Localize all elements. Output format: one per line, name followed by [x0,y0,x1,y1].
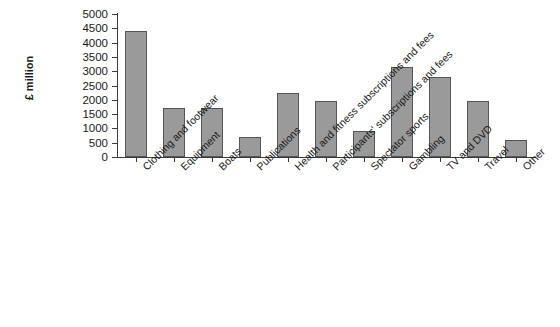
y-tick-label: 1000 [62,122,108,134]
y-tick-label: 2500 [62,80,108,92]
bar [505,140,527,157]
y-tick-label: 3500 [62,51,108,63]
x-tick [402,157,403,162]
y-tick-label: 500 [62,137,108,149]
bar [125,31,147,157]
y-tick-label: 2000 [62,94,108,106]
bar [315,101,337,157]
bar [391,67,413,157]
y-tick-label: 1500 [62,108,108,120]
x-tick [250,157,251,162]
bar [353,131,375,157]
x-tick [212,157,213,162]
x-tick [364,157,365,162]
y-tick-label: 5000 [62,8,108,20]
bar [239,137,261,157]
x-tick [440,157,441,162]
x-tick [288,157,289,162]
y-axis-title: £ million [23,33,35,123]
bar-chart: £ million 050010001500200025003000350040… [0,0,560,327]
x-tick [326,157,327,162]
x-tick [516,157,517,162]
y-tick-label: 3000 [62,65,108,77]
bar [163,108,185,157]
y-tick-label: 0 [62,151,108,163]
y-tick [112,157,117,158]
y-tick-label: 4500 [62,22,108,34]
bar [277,93,299,157]
bar [429,77,451,157]
x-tick [136,157,137,162]
bar [201,108,223,157]
bar [467,101,489,157]
x-tick [174,157,175,162]
x-tick [478,157,479,162]
bar-series [117,14,535,157]
y-tick-label: 4000 [62,37,108,49]
plot-area: 0500100015002000250030003500400045005000 [117,14,535,157]
